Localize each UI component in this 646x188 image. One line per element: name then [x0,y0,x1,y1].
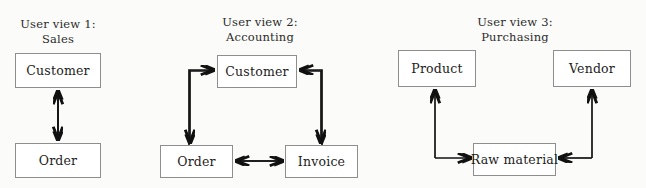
node-v1-customer[interactable]: Customer [15,53,101,88]
node-v2-invoice-label: Invoice [298,154,345,169]
node-v3-raw-material[interactable]: Raw material [473,143,556,176]
node-v3-raw-material-label: Raw material [471,152,558,167]
view-1-title-line1: User view 1: [20,17,96,31]
node-v1-customer-label: Customer [26,63,89,78]
node-v2-order[interactable]: Order [160,145,233,178]
node-v1-order-label: Order [39,153,78,168]
diagram-canvas: User view 1: Sales Customer Order User v… [0,0,646,188]
node-v3-product-label: Product [411,61,462,76]
node-v3-vendor-label: Vendor [569,61,615,76]
link-v3-raw-material-vendor [560,91,592,158]
view-1-title: User view 1: Sales [8,17,108,47]
node-v2-invoice[interactable]: Invoice [285,145,358,178]
node-v3-product[interactable]: Product [398,50,476,87]
node-v3-vendor[interactable]: Vendor [553,50,631,87]
view-1-title-line2: Sales [8,32,108,47]
view-2-title: User view 2: Accounting [205,15,315,45]
node-v2-customer[interactable]: Customer [217,55,297,88]
node-v1-order[interactable]: Order [15,143,101,178]
node-v2-order-label: Order [177,154,216,169]
view-2-title-line2: Accounting [205,30,315,45]
link-v2-invoice-customer [301,70,322,145]
node-v2-customer-label: Customer [225,64,288,79]
view-2-title-line1: User view 2: [222,15,298,29]
link-v2-order-customer [189,70,213,145]
view-3-title: User view 3: Purchasing [460,15,570,45]
view-3-title-line1: User view 3: [477,15,553,29]
link-v3-raw-material-product [435,91,470,158]
view-3-title-line2: Purchasing [460,30,570,45]
